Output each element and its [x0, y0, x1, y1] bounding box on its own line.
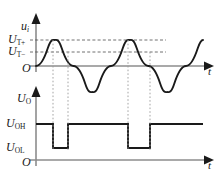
- u-ol-label: UOL: [6, 141, 24, 153]
- schmitt-trigger-waveform-figure: ui UT+ UT− O t UO UOH UOL O t: [0, 0, 224, 182]
- top-u-axis-arrow: [32, 13, 41, 24]
- u-t-minus-label: UT−: [8, 45, 25, 57]
- bottom-u-axis-arrow: [32, 86, 41, 97]
- output-square-waveform: [36, 124, 203, 148]
- u-oh-label: UOH: [6, 117, 25, 129]
- top-y-axis-label: ui: [21, 20, 29, 32]
- top-x-axis-label: t: [208, 66, 211, 77]
- top-origin-label: O: [22, 62, 31, 74]
- bottom-x-axis-label: t: [208, 160, 211, 171]
- bottom-origin-label: O: [22, 156, 31, 168]
- bottom-y-axis-label: UO: [17, 92, 31, 104]
- waveform-canvas: [0, 0, 224, 182]
